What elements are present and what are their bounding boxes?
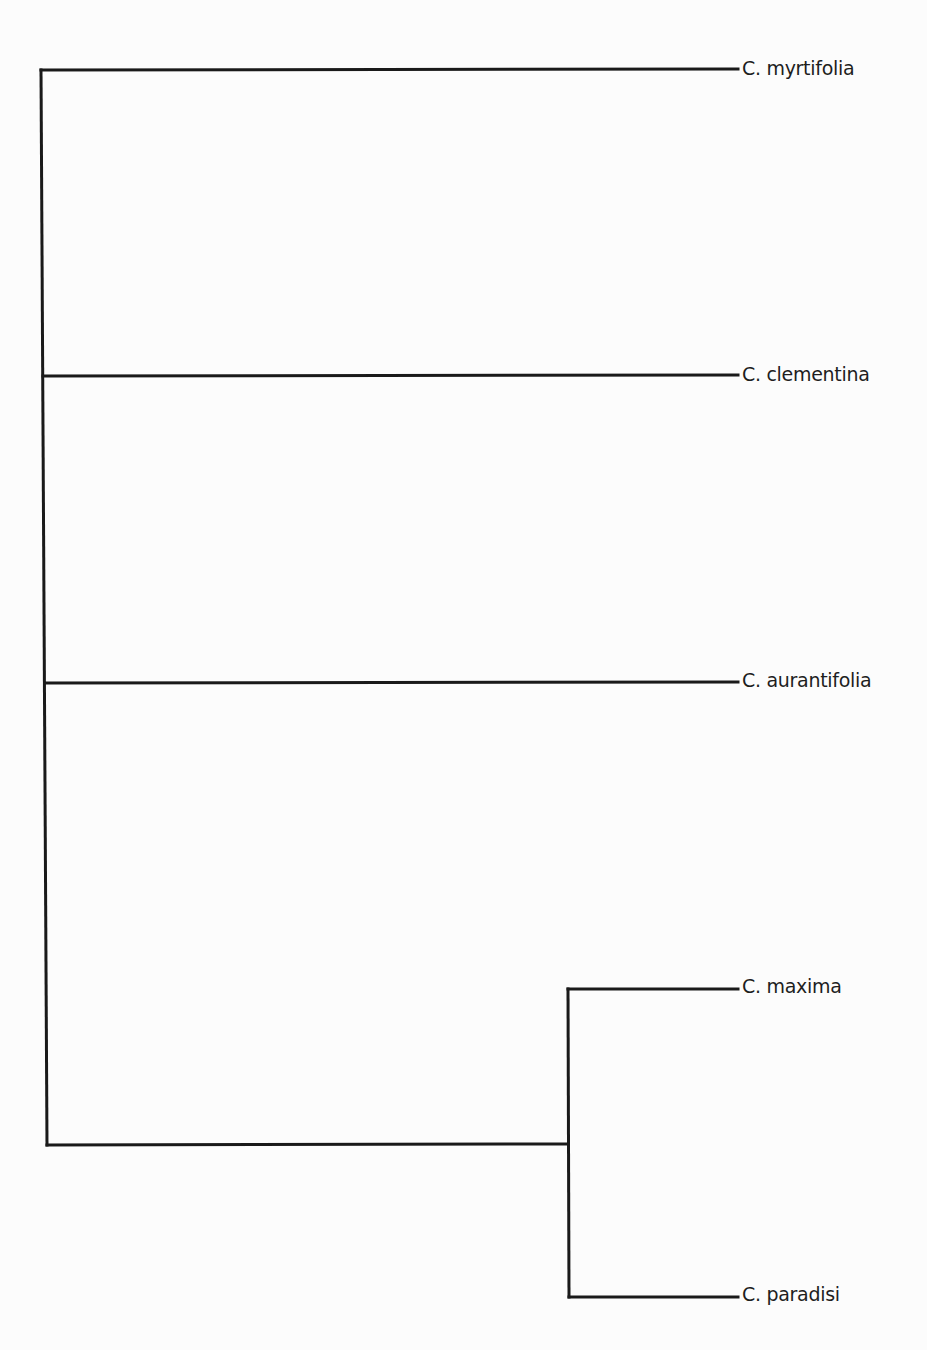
clade-vertical-branch [568,989,569,1297]
leaf-label-aurantifolia: C. aurantifolia [742,671,871,690]
leaf-label-maxima: C. maxima [742,977,841,996]
root-vertical-branch [41,70,47,1145]
branch-myrtifolia [41,69,738,70]
leaf-label-myrtifolia: C. myrtifolia [742,59,854,78]
branch-aurantifolia [45,682,738,683]
branch-clade-maxima-paradisi [47,1144,568,1145]
leaf-label-clementina: C. clementina [742,365,870,384]
leaf-label-paradisi: C. paradisi [742,1285,840,1304]
branch-clementina [43,375,738,376]
